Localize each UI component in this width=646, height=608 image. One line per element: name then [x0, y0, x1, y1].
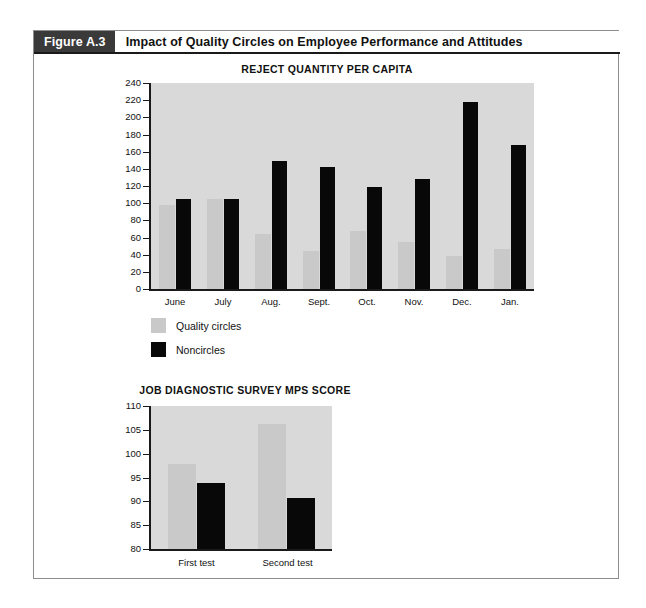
- x-axis-line: [149, 289, 534, 291]
- y-tick-mark: [143, 501, 149, 502]
- y-tick-label: 40: [103, 249, 141, 260]
- x-category-label: Second test: [242, 557, 333, 568]
- y-tick-label: 85: [103, 519, 141, 530]
- x-category-label: July: [199, 296, 247, 307]
- legend-label: Noncircles: [176, 344, 225, 356]
- y-tick-mark: [143, 454, 149, 455]
- legend-swatch-gray: [151, 318, 166, 333]
- y-tick-mark: [143, 430, 149, 431]
- y-tick-label: 80: [103, 214, 141, 225]
- x-category-label: Jan.: [486, 296, 534, 307]
- figure-title: Impact of Quality Circles on Employee Pe…: [115, 31, 620, 52]
- bar-noncircles: [176, 199, 191, 289]
- bar-noncircles: [367, 187, 382, 289]
- x-category-label: Dec.: [438, 296, 486, 307]
- x-category-label: June: [151, 296, 199, 307]
- figure-container: Figure A.3 Impact of Quality Circles on …: [33, 30, 619, 579]
- y-tick-label: 100: [103, 448, 141, 459]
- bar-quality-circles: [207, 199, 223, 289]
- y-tick-mark: [143, 152, 149, 153]
- x-axis-line: [149, 549, 332, 551]
- y-tick-label: 160: [103, 146, 141, 157]
- y-tick-label: 20: [103, 266, 141, 277]
- y-tick-mark: [143, 478, 149, 479]
- bar-noncircles: [320, 167, 335, 289]
- x-category-label: Nov.: [390, 296, 438, 307]
- bar-noncircles: [224, 199, 239, 289]
- x-category-label: Sept.: [295, 296, 343, 307]
- y-tick-mark: [143, 525, 149, 526]
- legend-item: Noncircles: [151, 342, 225, 357]
- bar-noncircles: [511, 145, 526, 289]
- y-tick-mark: [143, 255, 149, 256]
- y-tick-label: 140: [103, 163, 141, 174]
- legend-label: Quality circles: [176, 320, 241, 332]
- y-tick-label: 80: [103, 543, 141, 554]
- y-tick-mark: [143, 100, 149, 101]
- bar-quality-circles: [303, 251, 319, 289]
- y-tick-mark: [143, 238, 149, 239]
- y-tick-mark: [143, 135, 149, 136]
- y-tick-label: 95: [103, 472, 141, 483]
- y-tick-mark: [143, 83, 149, 84]
- y-tick-label: 120: [103, 180, 141, 191]
- y-tick-mark: [143, 272, 149, 273]
- y-axis-line: [149, 83, 151, 290]
- bar-quality-circles: [446, 256, 462, 289]
- chart-title-jds-mps: JOB DIAGNOSTIC SURVEY MPS SCORE: [110, 384, 380, 396]
- bar-quality-circles: [398, 242, 414, 289]
- bar-noncircles: [272, 161, 287, 289]
- bar-quality-circles: [159, 205, 175, 289]
- y-axis-line: [149, 406, 151, 550]
- y-tick-label: 90: [103, 495, 141, 506]
- y-tick-label: 110: [103, 400, 141, 411]
- bar-quality-circles: [350, 231, 366, 289]
- y-tick-label: 220: [103, 94, 141, 105]
- y-tick-label: 180: [103, 129, 141, 140]
- x-category-label: Oct.: [343, 296, 391, 307]
- bar-noncircles: [415, 179, 430, 289]
- y-tick-label: 105: [103, 424, 141, 435]
- y-tick-mark: [143, 117, 149, 118]
- y-tick-label: 200: [103, 111, 141, 122]
- bar-noncircles: [463, 102, 478, 289]
- legend-item: Quality circles: [151, 318, 241, 333]
- chart-title-reject-quantity: REJECT QUANTITY PER CAPITA: [34, 63, 620, 75]
- bar-quality-circles: [255, 234, 271, 289]
- x-category-label: Aug.: [247, 296, 295, 307]
- y-tick-mark: [143, 406, 149, 407]
- figure-number-badge: Figure A.3: [34, 31, 115, 52]
- y-tick-mark: [143, 169, 149, 170]
- y-tick-label: 0: [103, 283, 141, 294]
- y-tick-label: 240: [103, 77, 141, 88]
- bar-noncircles: [197, 483, 225, 549]
- bar-quality-circles: [494, 249, 510, 289]
- x-category-label: First test: [151, 557, 242, 568]
- legend-swatch-black: [151, 342, 166, 357]
- figure-header: Figure A.3 Impact of Quality Circles on …: [34, 31, 620, 54]
- y-tick-mark: [143, 289, 149, 290]
- bar-noncircles: [287, 498, 315, 549]
- y-tick-mark: [143, 203, 149, 204]
- y-tick-mark: [143, 549, 149, 550]
- y-tick-mark: [143, 186, 149, 187]
- bar-quality-circles: [168, 464, 196, 549]
- y-tick-label: 60: [103, 232, 141, 243]
- y-tick-label: 100: [103, 197, 141, 208]
- bar-quality-circles: [258, 424, 286, 549]
- y-tick-mark: [143, 220, 149, 221]
